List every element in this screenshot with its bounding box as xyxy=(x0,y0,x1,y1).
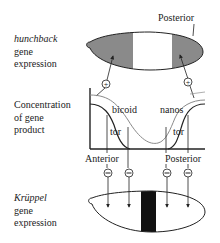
kruppel-embryo xyxy=(89,185,205,237)
posterior-label-graph: Posterior xyxy=(165,153,202,164)
bicoid-label: bicoid xyxy=(112,104,137,115)
repression-4 xyxy=(184,169,192,207)
repression-1 xyxy=(104,169,112,207)
diagram-canvas: + + bicoid nanos tor tor Anterior Post xyxy=(0,0,220,243)
concentration-graph: bicoid nanos tor tor Anterior Posterior xyxy=(84,88,206,168)
plus-symbol-left: + xyxy=(104,80,109,89)
tor-label-right: tor xyxy=(173,126,185,137)
anterior-label: Anterior xyxy=(85,153,120,164)
nanos-label: nanos xyxy=(160,104,183,115)
repression-3 xyxy=(163,169,171,207)
kruppel-central-band xyxy=(141,185,156,237)
plus-symbol-right: + xyxy=(186,78,191,87)
hunchback-embryo xyxy=(80,24,212,75)
repression-2 xyxy=(125,169,133,207)
tor-label-left: tor xyxy=(110,126,122,137)
